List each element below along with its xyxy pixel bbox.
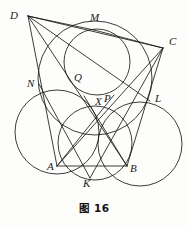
label-point-D: D [10, 10, 18, 21]
label-point-M: M [90, 12, 99, 23]
label-point-K: K [83, 178, 90, 189]
figure-caption: 图 16 [0, 200, 189, 215]
label-point-B: B [130, 163, 137, 174]
geometry-canvas [0, 0, 189, 226]
label-point-X: X [95, 96, 102, 107]
label-point-A: A [47, 161, 54, 172]
label-point-N: N [27, 78, 34, 89]
segment-CB [127, 48, 163, 166]
segment-CK [90, 48, 163, 178]
label-point-P: P [104, 93, 111, 104]
label-point-L: L [155, 93, 161, 104]
segment-CA [57, 48, 163, 166]
label-point-C: C [169, 36, 176, 47]
circle-excircle-left [15, 90, 99, 174]
segment-MC [94, 30, 163, 48]
geometry-figure: D M C N Q X P L A K B 图 16 [0, 0, 189, 226]
circle-excircle-right [98, 102, 182, 186]
label-point-Q: Q [74, 72, 82, 83]
